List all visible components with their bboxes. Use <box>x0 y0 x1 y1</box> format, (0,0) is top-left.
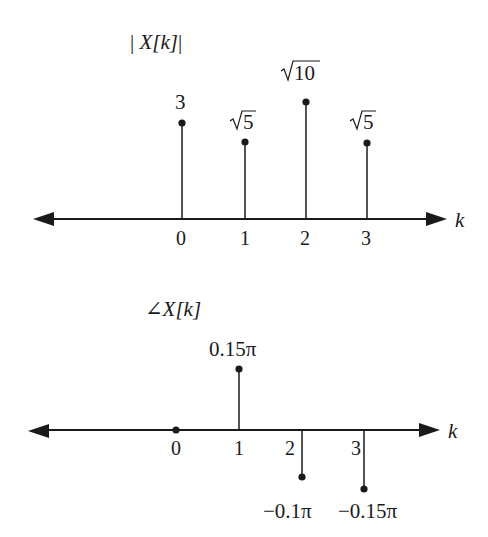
svg-text:5: 5 <box>363 110 374 134</box>
stem-point-k2 <box>298 473 305 480</box>
right-arrow-icon <box>419 423 440 437</box>
right-arrow-icon <box>426 212 447 226</box>
tick-label-0: 0 <box>176 227 186 249</box>
tick-label-3: 3 <box>361 227 371 249</box>
magnitude-stems <box>178 98 370 219</box>
tick-label-1: 1 <box>234 437 244 459</box>
value-label-k2: −0.1π <box>263 499 312 523</box>
tick-label-0: 0 <box>171 437 181 459</box>
value-label-k3: −0.15π <box>338 499 398 523</box>
stem-point-k0 <box>178 119 185 126</box>
magnitude-plot: | X[k]| k 3 5 10 5 <box>33 30 465 249</box>
tick-label-2: 2 <box>285 437 295 459</box>
phase-plot: ∠X[k] k 0.15π −0.1π −0.15π 0 1 2 3 <box>28 297 458 523</box>
stem-point-k1 <box>235 365 242 372</box>
magnitude-axis-label: k <box>455 208 465 232</box>
tick-label-1: 1 <box>240 227 250 249</box>
tick-label-2: 2 <box>300 227 310 249</box>
value-label-k0: 3 <box>175 90 186 114</box>
value-label-k3: 5 <box>350 110 376 134</box>
stem-point-k0 <box>172 426 179 433</box>
figure: | X[k]| k 3 5 10 5 <box>0 0 488 537</box>
stem-point-k2 <box>302 98 309 105</box>
value-label-k1: 0.15π <box>209 337 257 361</box>
value-label-k1: 5 <box>230 110 256 134</box>
magnitude-title: | X[k]| <box>130 30 182 54</box>
phase-stems <box>172 365 367 492</box>
tick-label-3: 3 <box>351 437 361 459</box>
stem-point-k3 <box>360 485 367 492</box>
value-label-k2: 10 <box>281 61 320 85</box>
phase-axis-label: k <box>448 419 458 443</box>
svg-text:10: 10 <box>294 61 315 85</box>
phase-title: ∠X[k] <box>145 297 201 321</box>
left-arrow-icon <box>33 212 54 226</box>
left-arrow-icon <box>28 424 49 438</box>
svg-text:5: 5 <box>243 110 254 134</box>
stem-point-k3 <box>363 139 370 146</box>
stem-point-k1 <box>241 138 248 145</box>
